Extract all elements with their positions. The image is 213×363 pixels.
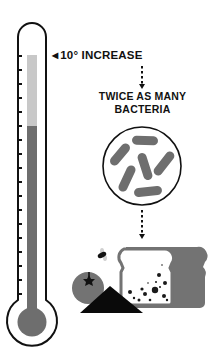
mercury-base-segment [27,126,37,316]
dotted-arrow-bottom [139,210,145,239]
bacteria-result-label: TWICE AS MANY BACTERIA [80,90,205,116]
bacteria-circle [103,127,181,205]
thermometer [7,23,57,346]
thermometer-bulb [18,308,47,337]
arrow-left-icon: ◀ [52,51,58,60]
increase-text: 10° INCREASE [60,49,142,61]
fly-icon [97,248,107,261]
mercury-increase-segment [27,55,37,127]
bread-slice [119,247,208,308]
temperature-increase-label: ◀10° INCREASE [52,49,143,61]
bacteria-result-line1: TWICE AS MANY [80,90,205,103]
dotted-arrow-top [139,66,145,89]
bacteria-result-line2: BACTERIA [80,103,205,116]
